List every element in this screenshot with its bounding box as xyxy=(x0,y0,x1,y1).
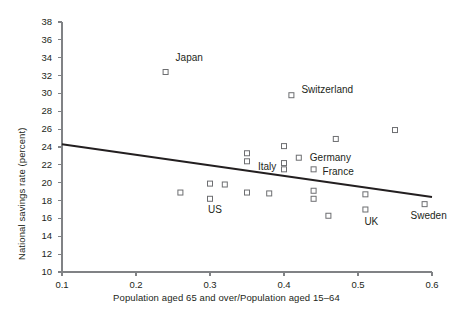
y-tick-label: 16 xyxy=(28,212,52,223)
x-tick-label: 0.2 xyxy=(121,279,151,290)
x-tick-label: 0.6 xyxy=(417,279,447,290)
data-point-marker xyxy=(333,136,338,141)
y-tick-label: 28 xyxy=(28,105,52,116)
data-point-marker xyxy=(282,167,287,172)
data-point-marker xyxy=(311,167,316,172)
y-tick-label: 38 xyxy=(28,16,52,27)
data-point-marker xyxy=(282,144,287,149)
y-tick-label: 20 xyxy=(28,177,52,188)
data-point-marker xyxy=(363,207,368,212)
x-tick-label: 0.5 xyxy=(343,279,373,290)
data-point-marker xyxy=(311,188,316,193)
plot-area xyxy=(0,0,453,320)
data-point-marker xyxy=(208,196,213,201)
data-point-marker xyxy=(178,190,183,195)
y-tick-label: 24 xyxy=(28,141,52,152)
data-point-marker xyxy=(311,196,316,201)
y-tick-label: 22 xyxy=(28,159,52,170)
data-point-label: UK xyxy=(364,216,378,227)
y-tick-label: 36 xyxy=(28,34,52,45)
axes xyxy=(58,22,432,276)
data-point-marker xyxy=(422,202,427,207)
data-point-marker xyxy=(326,213,331,218)
data-point-marker xyxy=(393,128,398,133)
data-point-label: Switzerland xyxy=(301,84,353,95)
data-point-label: Germany xyxy=(310,152,351,163)
data-point-marker xyxy=(267,191,272,196)
y-tick-label: 14 xyxy=(28,230,52,241)
data-point-marker xyxy=(163,70,168,75)
x-tick-label: 0.1 xyxy=(47,279,77,290)
data-point-marker xyxy=(245,151,250,156)
y-tick-label: 34 xyxy=(28,52,52,63)
y-tick-label: 18 xyxy=(28,195,52,206)
data-points xyxy=(163,70,427,219)
scatter-chart: 1012141618202224262830323436380.10.20.30… xyxy=(0,0,453,320)
y-tick-label: 32 xyxy=(28,70,52,81)
regression-line xyxy=(62,144,432,197)
data-point-label: US xyxy=(208,204,222,215)
x-axis-title: Population aged 65 and over/Population a… xyxy=(0,292,453,303)
data-point-marker xyxy=(363,192,368,197)
y-tick-label: 10 xyxy=(28,266,52,277)
y-tick-label: 30 xyxy=(28,87,52,98)
y-axis-title: National savings rate (percent) xyxy=(16,128,27,260)
y-tick-label: 26 xyxy=(28,123,52,134)
data-point-marker xyxy=(282,161,287,166)
data-point-marker xyxy=(222,182,227,187)
data-point-marker xyxy=(245,190,250,195)
trend-line xyxy=(62,144,432,197)
x-tick-label: 0.3 xyxy=(195,279,225,290)
data-point-label: Italy xyxy=(258,161,276,172)
x-tick-label: 0.4 xyxy=(269,279,299,290)
data-point-label: Japan xyxy=(176,52,203,63)
data-point-label: France xyxy=(323,166,354,177)
data-point-marker xyxy=(245,159,250,164)
y-tick-label: 12 xyxy=(28,248,52,259)
data-point-marker xyxy=(289,93,294,98)
data-point-marker xyxy=(208,181,213,186)
data-point-label: Sweden xyxy=(411,210,447,221)
data-point-marker xyxy=(296,155,301,160)
